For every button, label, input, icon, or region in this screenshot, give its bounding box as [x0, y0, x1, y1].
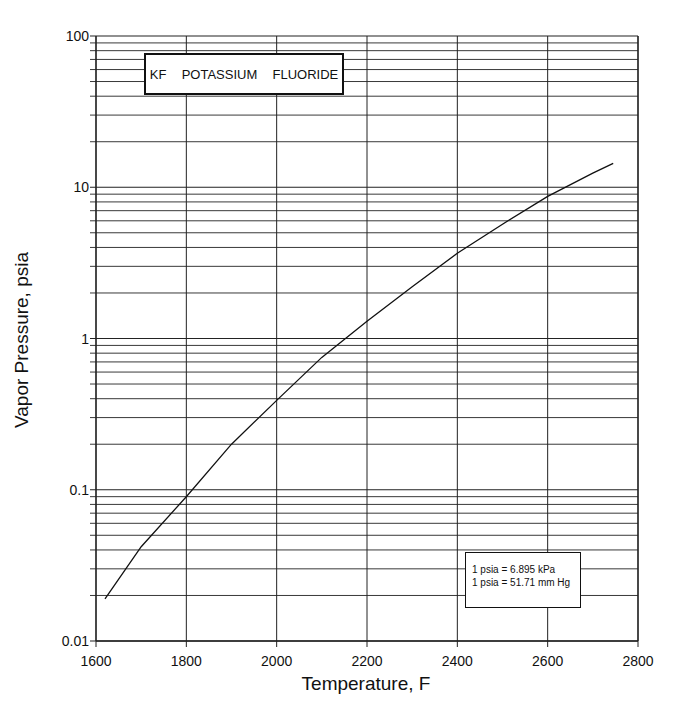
note-line-1: 1 psia = 6.895 kPa	[472, 563, 580, 576]
svg-text:100: 100	[66, 28, 90, 44]
svg-text:1800: 1800	[171, 653, 202, 669]
chart-title-box: KF POTASSIUM FLUORIDE	[144, 53, 344, 95]
svg-text:2800: 2800	[622, 653, 653, 669]
svg-text:2600: 2600	[532, 653, 563, 669]
svg-text:0.1: 0.1	[70, 482, 90, 498]
note-line-2: 1 psia = 51.71 mm Hg	[472, 576, 580, 589]
svg-text:0.01: 0.01	[62, 633, 89, 649]
unit-conversion-note: 1 psia = 6.895 kPa 1 psia = 51.71 mm Hg	[465, 552, 581, 608]
chart-canvas: 16001800200022002400260028000.010.111010…	[0, 0, 683, 720]
chart-title: KF POTASSIUM FLUORIDE	[150, 67, 338, 82]
svg-text:2000: 2000	[261, 653, 292, 669]
svg-text:2400: 2400	[442, 653, 473, 669]
svg-text:10: 10	[73, 179, 89, 195]
svg-text:2200: 2200	[351, 653, 382, 669]
svg-text:1: 1	[81, 331, 89, 347]
y-axis-label: Vapor Pressure, psia	[11, 252, 33, 428]
vapor-pressure-curve	[105, 163, 613, 599]
svg-text:1600: 1600	[80, 653, 111, 669]
x-axis-label: Temperature, F	[302, 673, 431, 695]
